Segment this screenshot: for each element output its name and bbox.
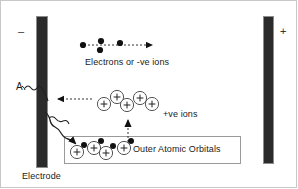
bound-ions: [70, 138, 134, 160]
electron-dot: [110, 143, 116, 149]
positive-ion: [145, 97, 158, 110]
current-squiggle-upper: [25, 86, 48, 101]
current-squiggle-tail: [49, 117, 69, 124]
electron-dot: [98, 138, 104, 144]
diagram-vector-layer: [0, 0, 298, 189]
positive-ions-label: +ve ions: [163, 110, 198, 119]
bound-ion: [99, 143, 116, 160]
electron-dot: [98, 38, 104, 44]
bound-ion: [70, 142, 87, 159]
bound-ion: [117, 138, 134, 155]
electron-dot: [97, 47, 103, 53]
electrons-label: Electrons or -ve ions: [85, 58, 169, 67]
outer-atomic-orbitals-label: Outer Atomic Orbitals: [133, 145, 221, 154]
electron-dot: [117, 40, 123, 46]
free-positive-ions: [97, 90, 158, 111]
electron-dot: [80, 42, 86, 48]
diagram-root: – + A: [0, 0, 298, 189]
electron-dot: [81, 142, 87, 148]
a-connector: [22, 86, 25, 90]
electrode-label: Electrode: [22, 172, 61, 181]
positive-ion: [120, 98, 133, 111]
positive-ion: [97, 97, 110, 110]
current-squiggle-lower: [45, 112, 75, 143]
positive-ion: [133, 91, 146, 104]
